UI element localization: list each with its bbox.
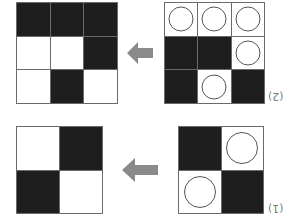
circle-icon: [184, 176, 216, 208]
circle-icon: [202, 7, 227, 32]
grid-cell-black: [17, 171, 59, 214]
grid-cell-black: [165, 37, 197, 70]
grid-cell-white: [17, 37, 50, 70]
grid-cell-circle: [232, 3, 264, 36]
grid-cell-black: [198, 37, 230, 70]
grid-cell-black: [51, 70, 84, 103]
problem-2-source-grid: [164, 2, 265, 104]
circle-icon: [235, 7, 260, 32]
grid-cell-black: [60, 127, 102, 170]
grid-cell-circle: [198, 3, 230, 36]
circle-icon: [235, 40, 260, 65]
grid-cell-white: [84, 70, 117, 103]
grid-cell-black: [165, 70, 197, 103]
problem-1-label: (1): [268, 202, 284, 215]
grid-cell-black: [17, 3, 50, 36]
grid-cell-circle: [165, 3, 197, 36]
grid-cell-circle: [198, 70, 230, 103]
grid-cell-circle: [179, 171, 221, 214]
grid-cell-black: [84, 37, 117, 70]
circle-icon: [226, 132, 258, 164]
grid-cell-black: [179, 127, 221, 170]
grid-cell-white: [17, 127, 59, 170]
circle-icon: [169, 7, 194, 32]
grid-cell-circle: [232, 37, 264, 70]
grid-cell-circle: [222, 127, 264, 170]
grid-cell-white: [51, 37, 84, 70]
problem-1-left-arrow-icon: [122, 157, 158, 183]
grid-cell-black: [222, 171, 264, 214]
problem-2-label: (2): [268, 90, 284, 103]
grid-cell-white: [60, 171, 102, 214]
problem-1-result-grid: [16, 126, 103, 214]
grid-cell-white: [17, 70, 50, 103]
grid-cell-black: [51, 3, 84, 36]
problem-1-source-grid: [178, 126, 264, 214]
grid-cell-black: [84, 3, 117, 36]
problem-2-left-arrow-icon: [127, 41, 153, 65]
problem-2-result-grid: [16, 2, 118, 104]
circle-icon: [202, 74, 227, 99]
grid-cell-black: [232, 70, 264, 103]
